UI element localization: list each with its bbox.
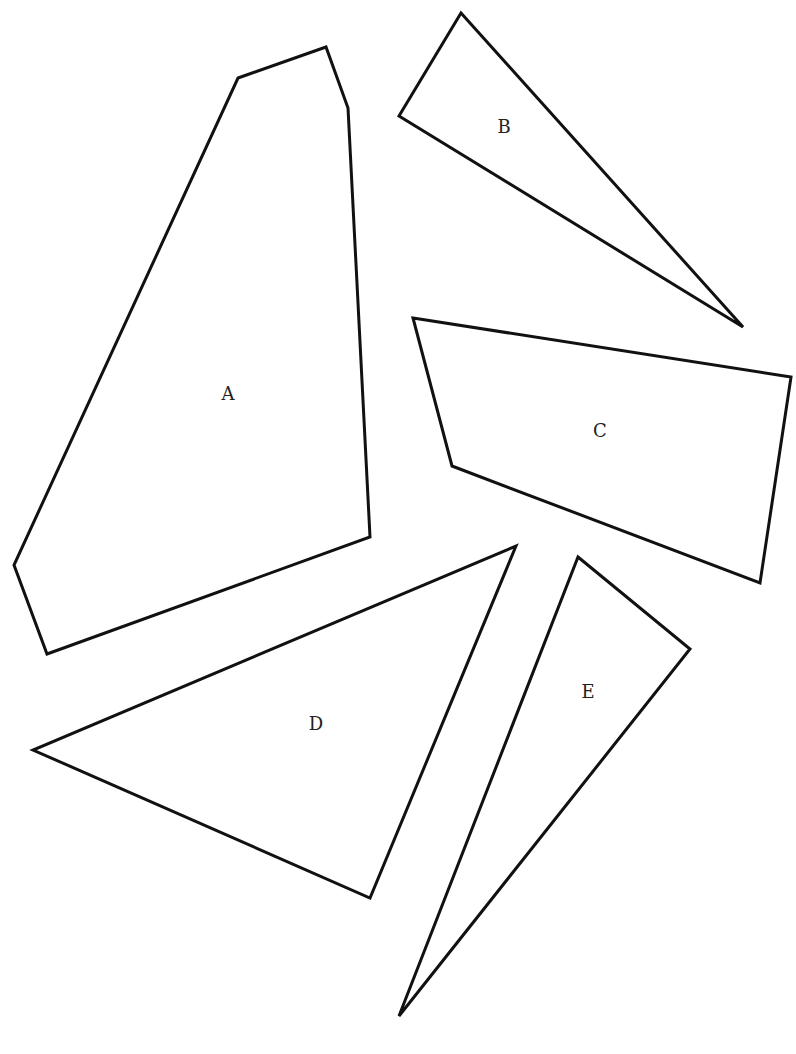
- shape-b-outline: [399, 13, 743, 327]
- shape-a-outline: [14, 47, 370, 654]
- shape-b: B: [399, 13, 743, 327]
- shape-e-label: E: [581, 681, 594, 702]
- shape-e: E: [399, 557, 690, 1016]
- shapes-canvas: A B C D E: [0, 0, 796, 1054]
- shape-d-label: D: [309, 713, 323, 734]
- shape-b-label: B: [497, 116, 510, 137]
- shape-a: A: [14, 47, 370, 654]
- shape-c-outline: [413, 318, 791, 583]
- shape-a-label: A: [221, 383, 236, 404]
- shape-c-label: C: [593, 420, 607, 441]
- shape-e-outline: [399, 557, 690, 1016]
- shape-d: D: [33, 546, 516, 898]
- shape-c: C: [413, 318, 791, 583]
- shape-d-outline: [33, 546, 516, 898]
